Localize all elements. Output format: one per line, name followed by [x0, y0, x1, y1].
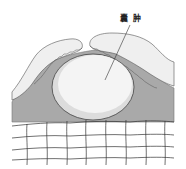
cyst-label: 囊 肿 — [120, 15, 142, 23]
cyst-illustration — [0, 0, 186, 169]
cell-layer — [12, 120, 174, 165]
cyst-body — [58, 55, 132, 113]
